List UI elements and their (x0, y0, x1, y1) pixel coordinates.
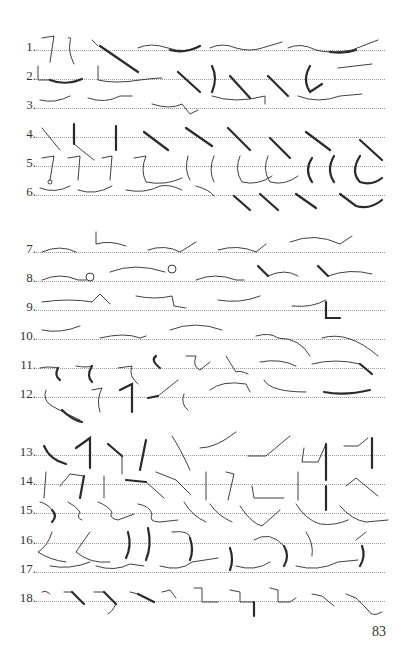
shorthand-outlines (0, 0, 408, 664)
shorthand-exercise-page: 1. 2. 3. 4. 5. 6. 7. 8. 9. 10. 11. (0, 0, 408, 664)
page-number: 83 (372, 624, 386, 640)
